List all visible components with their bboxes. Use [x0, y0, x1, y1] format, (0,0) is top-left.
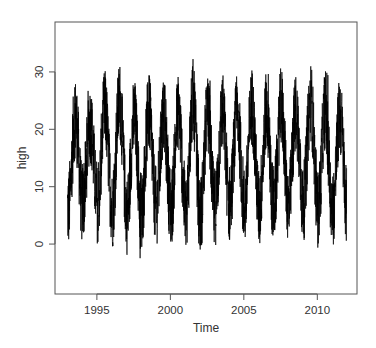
- y-tick-label: 20: [33, 123, 45, 136]
- time-series-chart: 1995200020052010 0102030 Time high: [0, 0, 376, 348]
- x-tick-label: 2005: [231, 304, 257, 316]
- y-tick-label: 30: [33, 66, 45, 79]
- y-tick-label: 0: [33, 241, 45, 247]
- y-tick-label: 10: [33, 180, 45, 193]
- y-axis-title: high: [15, 147, 29, 170]
- x-tick-label: 2010: [305, 304, 331, 316]
- x-tick-label: 1995: [84, 304, 110, 316]
- x-axis-title: Time: [193, 321, 220, 335]
- y-axis: 0102030: [33, 66, 55, 248]
- x-axis: 1995200020052010: [84, 294, 330, 316]
- x-tick-label: 2000: [158, 304, 184, 316]
- series-line-high: [68, 59, 347, 258]
